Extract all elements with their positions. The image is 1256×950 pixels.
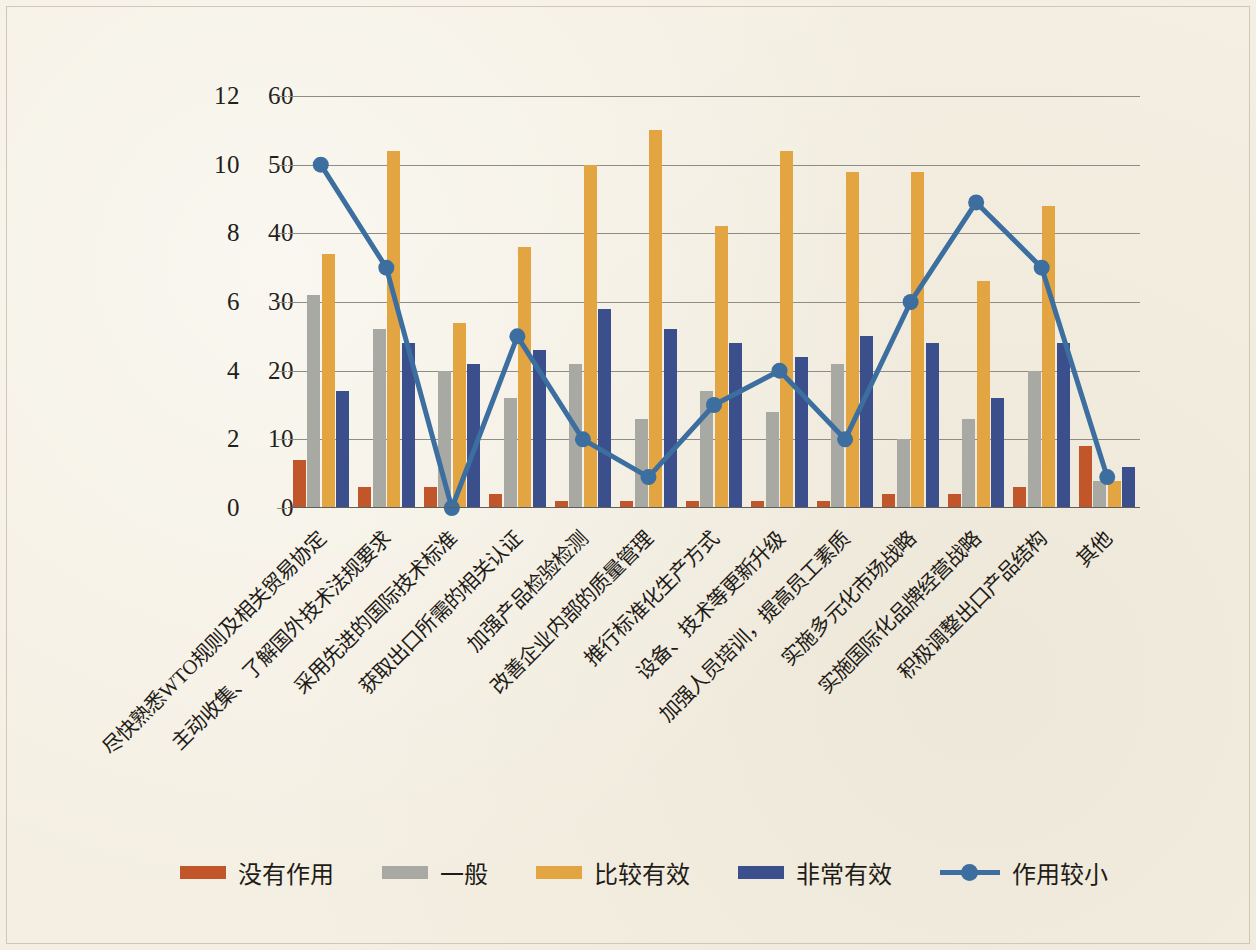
- legend-label: 没有作用: [238, 855, 334, 890]
- axis-tick: [277, 165, 287, 166]
- left-axis-tick-label: 6: [196, 289, 240, 314]
- axis-tick: [277, 233, 287, 234]
- legend-item[interactable]: 比较有效: [536, 855, 690, 890]
- line-marker: [1099, 469, 1115, 485]
- legend-color-swatch: [536, 866, 582, 879]
- left-axis-tick-label: 10: [196, 152, 240, 177]
- legend-color-swatch: [738, 866, 784, 879]
- legend-label: 作用较小: [1012, 855, 1108, 890]
- line-marker: [1034, 260, 1050, 276]
- line-marker: [968, 194, 984, 210]
- line-marker: [313, 157, 329, 173]
- left-axis-tick-label: 8: [196, 220, 240, 245]
- axis-tick: [277, 302, 287, 303]
- line-marker: [575, 431, 591, 447]
- legend-label: 非常有效: [796, 855, 892, 890]
- legend-item[interactable]: 没有作用: [180, 855, 334, 890]
- legend-item[interactable]: 作用较小: [940, 855, 1108, 890]
- line-marker: [837, 431, 853, 447]
- legend-color-swatch: [180, 866, 226, 879]
- left-axis-tick-label: 4: [196, 358, 240, 383]
- line-series-layer: [288, 96, 1140, 508]
- legend-item[interactable]: 一般: [382, 855, 488, 890]
- line-marker: [772, 363, 788, 379]
- line-path: [321, 165, 1107, 508]
- x-axis-baseline: [288, 507, 1140, 508]
- legend-item[interactable]: 非常有效: [738, 855, 892, 890]
- line-marker: [378, 260, 394, 276]
- legend-line-marker-icon: [940, 863, 1000, 881]
- legend-color-swatch: [382, 866, 428, 879]
- axis-tick: [277, 439, 287, 440]
- left-axis-tick-label: 12: [196, 83, 240, 108]
- plot-area: [288, 96, 1140, 508]
- line-marker: [706, 397, 722, 413]
- axis-tick: [277, 371, 287, 372]
- line-marker: [640, 469, 656, 485]
- axis-tick: [277, 96, 287, 97]
- chart-page: 024681012 0102030405060 尽快熟悉WTO规则及相关贸易协定…: [0, 0, 1256, 950]
- legend-label: 一般: [440, 855, 488, 890]
- left-axis-tick-label: 2: [196, 426, 240, 451]
- line-marker: [509, 328, 525, 344]
- legend-label: 比较有效: [594, 855, 690, 890]
- category-axis-labels: 尽快熟悉WTO规则及相关贸易协定主动收集、了解国外技术法规要求采用先进的国际技术…: [288, 512, 1140, 812]
- left-axis-tick-label: 0: [196, 495, 240, 520]
- axis-tick: [277, 508, 287, 509]
- chart-legend: 没有作用一般比较有效非常有效作用较小: [180, 852, 1120, 892]
- combo-chart: 024681012 0102030405060 尽快熟悉WTO规则及相关贸易协定…: [0, 0, 1256, 950]
- line-marker: [903, 294, 919, 310]
